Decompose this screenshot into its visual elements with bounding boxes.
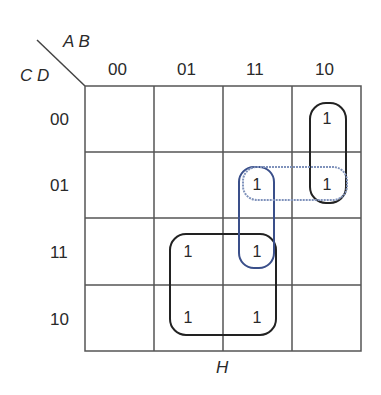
var-label-ab: A B	[63, 32, 90, 52]
function-label: H	[216, 358, 228, 378]
var-label-cd: C D	[20, 66, 49, 86]
row-header-10: 10	[50, 310, 69, 330]
row-header-11: 11	[50, 243, 68, 263]
row-header-00: 00	[50, 110, 69, 130]
cell-00-10: 1	[317, 110, 337, 128]
cell-11-01: 1	[178, 243, 198, 261]
col-header-10: 10	[315, 60, 334, 80]
col-header-00: 00	[108, 60, 127, 80]
row-header-01: 01	[50, 176, 69, 196]
cell-10-11: 1	[247, 309, 267, 327]
cell-11-11: 1	[247, 243, 267, 261]
col-header-01: 01	[177, 60, 196, 80]
cell-10-01: 1	[178, 309, 198, 327]
cell-01-10: 1	[317, 176, 337, 194]
cell-01-11: 1	[247, 176, 267, 194]
col-header-11: 11	[246, 60, 264, 80]
